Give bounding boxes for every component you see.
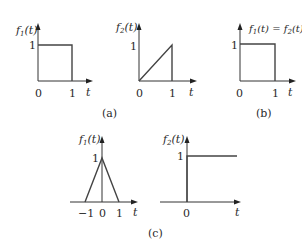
x-axis-arrow-icon [86,79,93,84]
y-tick-1: 1 [29,39,36,52]
y-tick-1: 1 [177,150,184,163]
caption-a: (a) [102,107,117,120]
x-axis-label: t [189,86,194,99]
panel-b-f1-equals-f2: f1(t) = f2(t) 1 0 1 t [231,23,302,100]
x-tick-neg1: −1 [78,207,94,220]
x-tick-1: 1 [116,207,123,220]
panel-a2-f2-ramp: f2(t) 1 0 1 t [115,21,197,100]
x-axis-arrow-icon [289,79,296,84]
y-axis-label: f1(t) = f2(t) [248,23,302,36]
caption-b: (b) [256,107,272,120]
x-axis-arrow-icon [131,200,138,205]
x-tick-0: 0 [35,87,42,100]
x-tick-0: 0 [183,207,190,220]
caption-c: (c) [148,227,163,239]
x-tick-1: 1 [169,87,176,100]
x-axis-label: t [235,206,240,219]
x-tick-0: 0 [99,207,106,220]
panel-c2-f2-step: f2(t) 1 0 t [160,133,241,220]
x-axis-label: t [288,86,293,99]
y-axis-label: f1(t) [78,133,101,147]
x-axis-label: t [133,206,138,219]
y-tick-1: 1 [92,152,99,165]
signal-ramp [139,45,172,81]
panel-a1-f1-rect: f1(t) 1 0 1 t [15,23,93,100]
y-axis-label: f1(t) [15,24,38,38]
signal-rect [240,44,275,81]
y-axis-label: f2(t) [162,133,185,147]
x-axis-arrow-icon [234,200,241,205]
y-axis-arrow-icon [238,23,243,30]
y-tick-1: 1 [130,40,137,53]
y-axis-arrow-icon [185,136,190,143]
x-tick-1: 1 [272,87,279,100]
x-axis-label: t [86,86,91,99]
x-tick-0: 0 [236,87,243,100]
signal-rect [38,45,72,81]
x-tick-1: 1 [69,87,76,100]
signals-figure: f1(t) 1 0 1 t f2(t) 1 0 1 t (a) f1(t) = … [0,0,302,239]
panel-c1-f1-triangle: f1(t) 1 −1 0 1 t [70,133,138,220]
y-axis-label: f2(t) [115,21,138,35]
signal-step [187,156,237,202]
x-axis-arrow-icon [190,79,197,84]
x-tick-0: 0 [136,87,143,100]
y-tick-1: 1 [231,39,238,52]
